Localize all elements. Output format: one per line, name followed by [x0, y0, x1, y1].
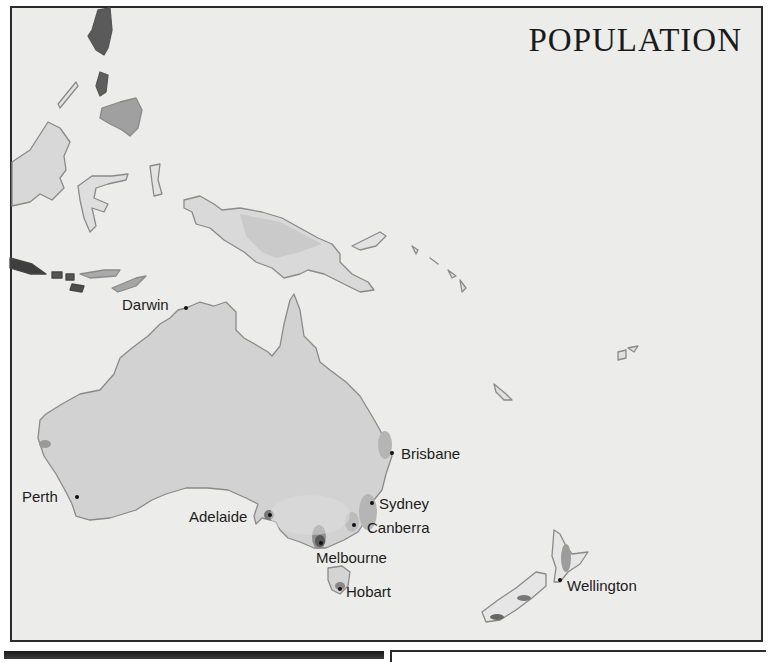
city-dot-darwin: [184, 306, 188, 310]
city-dot-adelaide: [268, 513, 272, 517]
nz-north-density: [561, 544, 571, 572]
nz-south-island: [482, 572, 546, 622]
bottom-box-right: [390, 650, 766, 662]
java-island: [10, 258, 46, 274]
palawan-island: [58, 82, 78, 108]
city-label-canberra: Canberra: [367, 520, 430, 535]
timor-island: [112, 276, 146, 292]
city-label-perth: Perth: [22, 489, 58, 504]
sumba-island: [70, 284, 84, 292]
philippines-central: [96, 72, 108, 96]
bottom-bar-left: [4, 651, 384, 659]
bali-lombok-islands: [52, 272, 74, 280]
city-label-hobart: Hobart: [346, 584, 391, 599]
luzon-island: [88, 8, 112, 55]
city-label-brisbane: Brisbane: [401, 446, 460, 461]
city-dot-melbourne: [319, 541, 323, 545]
city-dot-perth: [75, 495, 79, 499]
map-title: POPULATION: [528, 22, 742, 59]
city-label-wellington: Wellington: [567, 578, 637, 593]
nz-south-density-1: [517, 595, 531, 601]
se-australia-sparse: [270, 495, 350, 535]
fiji-islands: [618, 346, 638, 360]
queensland-coast-density: [378, 431, 392, 459]
city-dot-wellington: [558, 578, 562, 582]
solomon-islands: [412, 246, 466, 292]
sulawesi-island: [78, 174, 128, 232]
new-britain-island: [352, 232, 386, 250]
city-label-adelaide: Adelaide: [189, 509, 247, 524]
mindanao-island: [100, 98, 142, 136]
city-dot-hobart: [338, 587, 342, 591]
city-dot-brisbane: [390, 451, 394, 455]
city-dot-canberra: [352, 523, 356, 527]
halmahera-island: [150, 164, 162, 196]
new-caledonia-island: [494, 384, 512, 400]
borneo-island: [12, 122, 70, 206]
city-dot-sydney: [370, 501, 374, 505]
nz-south-density-2: [490, 614, 504, 620]
sumbawa-flores-islands: [80, 270, 120, 278]
city-label-sydney: Sydney: [379, 496, 429, 511]
city-label-melbourne: Melbourne: [316, 550, 387, 565]
city-label-darwin: Darwin: [122, 297, 169, 312]
perth-region-density: [39, 440, 51, 448]
